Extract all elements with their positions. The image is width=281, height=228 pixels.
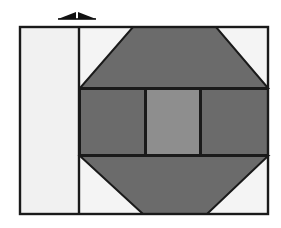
arrow-shaft — [58, 18, 96, 20]
middle-right-block — [201, 89, 268, 155]
figure-canvas — [0, 0, 281, 228]
middle-center-block — [146, 89, 200, 155]
arrow-head-right-icon — [78, 12, 96, 19]
left-panel — [20, 27, 78, 214]
arrow-head-left-icon — [58, 12, 76, 19]
middle-left-block — [80, 89, 145, 155]
double-headed-arrow — [58, 12, 96, 20]
diagram-svg — [0, 0, 281, 228]
